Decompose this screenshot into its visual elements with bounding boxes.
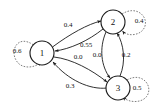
edge-path-1-to-2 — [53, 21, 102, 47]
edge-label-2-to-1: 0.55 — [80, 41, 93, 49]
node-1[interactable]: 1 — [30, 41, 54, 65]
edge-label-1-to-2: 0.4 — [64, 21, 73, 29]
edge-path-2-to-3 — [102, 32, 110, 78]
node-label-2: 2 — [111, 17, 116, 27]
self-loop-label-node-2: 0.4 — [135, 17, 144, 25]
node-label-1: 1 — [40, 48, 45, 58]
edge-label-3-to-1: 0.3 — [66, 82, 75, 90]
edge-group-2-to-3: 0.0 — [93, 32, 110, 78]
edge-group-1-to-2: 0.4 — [53, 21, 102, 47]
edge-label-2-to-3: 0.0 — [93, 51, 102, 59]
node-label-3: 3 — [116, 83, 121, 93]
markov-chain-diagram: 0.6 0.4 0.5 0.4 0.55 0.0 0.3 — [0, 0, 153, 111]
node-2[interactable]: 2 — [101, 10, 125, 34]
edge-label-3-to-2: 0.2 — [122, 51, 131, 59]
diagram-canvas: 0.6 0.4 0.5 0.4 0.55 0.0 0.3 — [0, 0, 153, 111]
edge-path-3-to-1 — [53, 62, 107, 88]
self-loop-label-node-3: 0.5 — [133, 84, 142, 92]
node-3[interactable]: 3 — [106, 76, 130, 100]
edge-label-1-to-3: 0.0 — [74, 53, 83, 61]
edge-group-3-to-2: 0.2 — [117, 33, 131, 76]
self-loop-label-node-1: 0.6 — [13, 47, 22, 55]
